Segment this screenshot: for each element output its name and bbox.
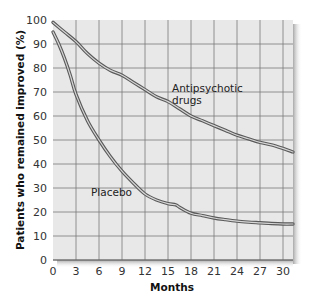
y-axis-title: Patients who remained improved (%) <box>14 30 26 250</box>
series-label-placebo: Placebo <box>91 186 132 198</box>
x-tick-label: 0 <box>50 265 57 278</box>
y-tick-label: 90 <box>33 38 47 51</box>
y-tick-label: 80 <box>33 62 47 75</box>
x-tick-label: 15 <box>161 265 175 278</box>
x-tick-label: 21 <box>207 265 221 278</box>
x-tick-label: 9 <box>119 265 126 278</box>
y-axis-ticks: 0102030405060708090100 <box>26 14 47 267</box>
x-tick-label: 3 <box>73 265 80 278</box>
line-chart: 0102030405060708090100 03691215182124273… <box>0 0 309 304</box>
x-tick-label: 27 <box>253 265 267 278</box>
x-tick-label: 18 <box>184 265 198 278</box>
y-tick-label: 0 <box>40 254 47 267</box>
series-label-antipsychotic-line2: drugs <box>172 94 202 106</box>
y-tick-label: 70 <box>33 86 47 99</box>
y-tick-label: 30 <box>33 182 47 195</box>
y-tick-label: 20 <box>33 206 47 219</box>
x-tick-label: 6 <box>96 265 103 278</box>
y-tick-label: 50 <box>33 134 47 147</box>
y-tick-label: 40 <box>33 158 47 171</box>
x-tick-label: 30 <box>276 265 290 278</box>
y-tick-label: 60 <box>33 110 47 123</box>
series-label-antipsychotic: Antipsychotic <box>172 82 243 94</box>
x-tick-label: 24 <box>230 265 244 278</box>
x-axis-title: Months <box>150 281 194 293</box>
y-tick-label: 100 <box>26 14 47 27</box>
x-tick-label: 12 <box>138 265 152 278</box>
y-tick-label: 10 <box>33 230 47 243</box>
